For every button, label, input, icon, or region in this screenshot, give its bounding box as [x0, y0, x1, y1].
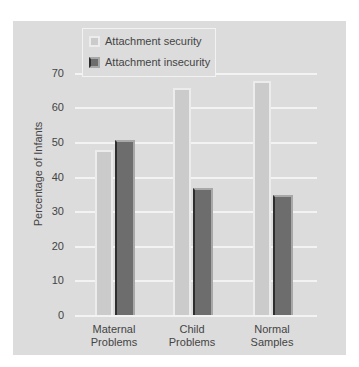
- legend-item-security: Attachment security: [89, 35, 202, 47]
- legend: Attachment security Attachment insecurit…: [82, 28, 216, 77]
- bar-security: [173, 88, 191, 316]
- x-category-label-line: Samples: [232, 336, 312, 349]
- bar-insecurity: [193, 188, 213, 316]
- y-tick-label: 50: [34, 136, 64, 148]
- y-tick-label: 10: [34, 274, 64, 286]
- legend-swatch-security-icon: [89, 36, 100, 47]
- y-tick-label: 40: [34, 171, 64, 183]
- legend-label-insecurity: Attachment insecurity: [105, 56, 210, 68]
- legend-item-insecurity: Attachment insecurity: [89, 56, 210, 68]
- x-category-label: NormalSamples: [232, 323, 312, 349]
- y-tick-label: 70: [34, 67, 64, 79]
- legend-label-security: Attachment security: [105, 35, 202, 47]
- gridline: [75, 107, 317, 109]
- x-category-label-line: Problems: [74, 336, 154, 349]
- x-category-label: MaternalProblems: [74, 323, 154, 349]
- x-category-label-line: Normal: [232, 323, 312, 336]
- y-tick-label: 0: [34, 309, 64, 321]
- y-tick-label: 30: [34, 205, 64, 217]
- gridline: [75, 142, 317, 144]
- x-category-label-line: Maternal: [74, 323, 154, 336]
- x-category-label: ChildProblems: [152, 323, 232, 349]
- bar-security: [253, 81, 271, 316]
- legend-swatch-insecurity-icon: [89, 57, 100, 68]
- x-category-label-line: Child: [152, 323, 232, 336]
- bar-insecurity: [273, 195, 293, 316]
- x-category-label-line: Problems: [152, 336, 232, 349]
- bar-security: [95, 150, 113, 316]
- x-axis-baseline: [75, 315, 317, 317]
- bar-insecurity: [115, 140, 135, 316]
- y-tick-label: 60: [34, 101, 64, 113]
- y-tick-label: 20: [34, 240, 64, 252]
